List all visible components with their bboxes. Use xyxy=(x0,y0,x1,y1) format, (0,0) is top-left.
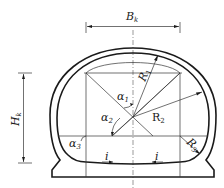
r1-label: R1 xyxy=(135,66,153,84)
alpha1-label: α1 xyxy=(117,90,129,104)
height-dimension: Hk xyxy=(9,73,32,163)
alpha3-label: α3 xyxy=(69,137,81,151)
alpha3-arc xyxy=(81,136,86,141)
tunnel-cross-section-diagram: Bk Hk R1 R2 R3 xyxy=(0,0,224,188)
width-dimension: Bk xyxy=(86,10,180,33)
width-label: Bk xyxy=(125,10,138,24)
r2-label: R2 xyxy=(152,111,165,125)
r2-leader: R2 xyxy=(133,92,202,125)
r3-label: R3 xyxy=(183,135,203,155)
r3-leader: R3 xyxy=(180,135,202,155)
height-label: Hk xyxy=(9,112,23,127)
r1-leader: R1 xyxy=(133,55,158,117)
slope-left: i xyxy=(102,150,113,164)
slope-right: i xyxy=(152,150,163,164)
alpha2-label: α2 xyxy=(101,111,113,125)
slope-left-label: i xyxy=(105,150,109,163)
